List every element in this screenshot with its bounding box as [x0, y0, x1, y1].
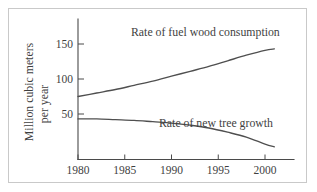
- x-tick-label-1995: 1995: [207, 164, 230, 176]
- y-tick-label-50: 50: [62, 108, 74, 120]
- x-tick-label-1980: 1980: [67, 164, 90, 176]
- series-curve-fuel-wood-consumption: [78, 49, 274, 97]
- x-tick-label-2000: 2000: [254, 164, 277, 176]
- y-tick-label-100: 100: [56, 73, 74, 85]
- x-tick-label-1990: 1990: [160, 164, 183, 176]
- y-axis-title-line2: per year: [37, 85, 51, 123]
- y-axis-title-line1: Million cubic meters: [22, 42, 36, 141]
- series-label-new-tree-growth: Rate of new tree growth: [159, 116, 273, 130]
- y-tick-label-150: 150: [56, 38, 74, 50]
- x-tick-label-1985: 1985: [113, 164, 136, 176]
- series-label-fuel-wood-consumption: Rate of fuel wood consumption: [131, 25, 280, 39]
- line-chart-canvas: 150 100 50 1980 1985 1990 1995 2000 Mill…: [0, 0, 317, 192]
- chart-figure: 150 100 50 1980 1985 1990 1995 2000 Mill…: [0, 0, 317, 192]
